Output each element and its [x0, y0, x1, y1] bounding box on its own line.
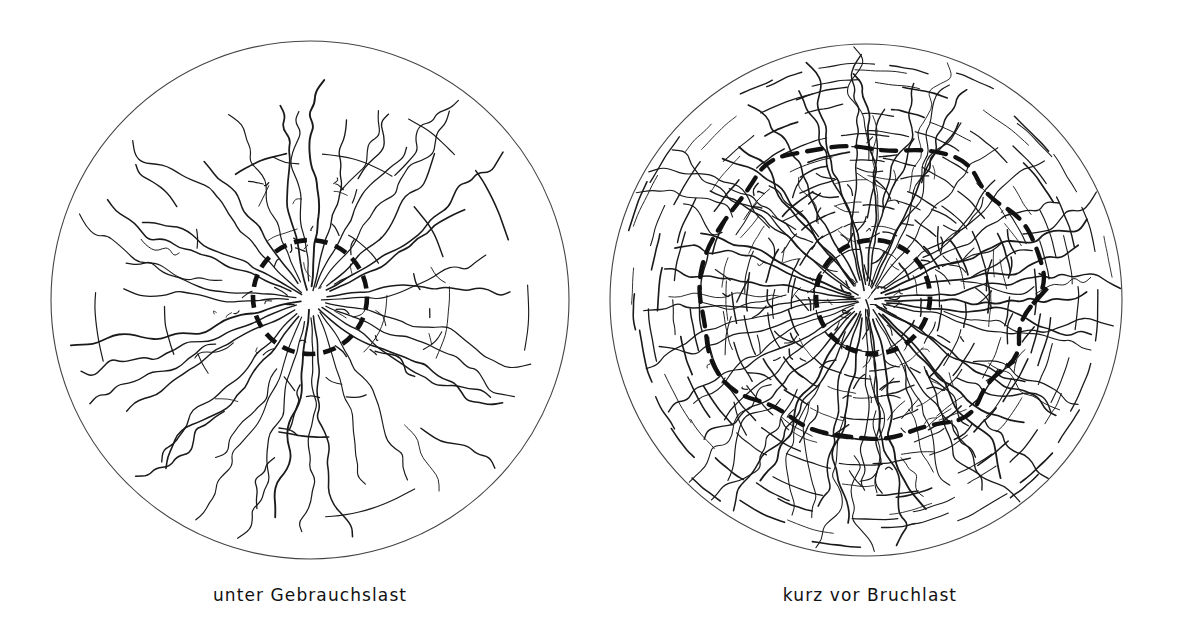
crack-circumferential: [921, 299, 922, 317]
caption-right: kurz vor Bruchlast: [670, 585, 1070, 605]
crack-pattern-figure: [0, 0, 1181, 633]
crack-circumferential: [852, 519, 898, 520]
panel-left-service-load: [51, 41, 569, 559]
panel-right-ultimate-load: [610, 44, 1122, 556]
caption-left: unter Gebrauchslast: [110, 585, 510, 605]
